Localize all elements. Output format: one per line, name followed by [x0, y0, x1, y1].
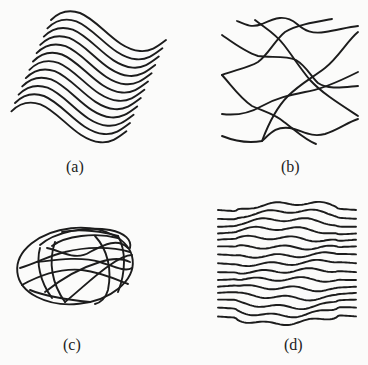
- wavy-line: [218, 245, 356, 249]
- wavy-line: [218, 307, 356, 317]
- wavy-line: [218, 210, 356, 220]
- panel-b-random-curves: [222, 18, 358, 144]
- curve-line: [222, 35, 358, 88]
- wavy-line: [218, 285, 356, 291]
- wavy-line: [218, 300, 356, 310]
- wavy-line: [218, 268, 356, 273]
- wavy-line: [218, 252, 356, 257]
- caption-d: (d): [284, 337, 303, 353]
- panel-a-sinusoidal-curves: [11, 11, 166, 142]
- caption-c: (c): [63, 337, 81, 353]
- figure: (a) (b) (c) (d): [0, 0, 368, 365]
- wavy-line: [218, 202, 356, 211]
- curve-line: [222, 119, 358, 142]
- curve-line: [45, 259, 130, 292]
- figure-artwork: [0, 0, 368, 365]
- panel-c-ellipsoid-curves: [13, 222, 136, 310]
- wavy-line: [218, 260, 356, 266]
- caption-b: (b): [281, 159, 300, 175]
- wavy-line: [218, 292, 356, 300]
- wavy-line: [218, 227, 356, 235]
- caption-a: (a): [66, 159, 84, 175]
- wavy-line: [218, 277, 356, 282]
- wavy-line: [218, 218, 356, 227]
- panel-d-lens-distorted-lines: [218, 202, 356, 325]
- wavy-line: [218, 236, 356, 242]
